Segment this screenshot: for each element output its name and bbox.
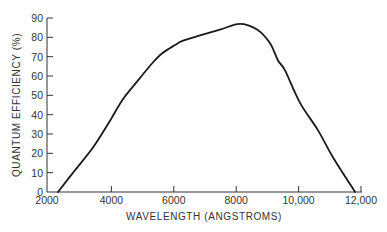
y-axis-title: QUANTUM EFFICIENCY (%) [11, 33, 22, 177]
y-tick-label: 50 [31, 89, 43, 101]
y-tick-label: 30 [31, 128, 43, 140]
x-tick-label: 12,000 [345, 194, 377, 206]
y-tick-label: 10 [31, 167, 43, 179]
efficiency-curve [58, 24, 355, 192]
x-axis-title: WAVELENGTH (ANGSTROMS) [126, 211, 282, 222]
x-tick-label: 8000 [225, 194, 249, 206]
x-tick-label: 4000 [100, 194, 124, 206]
x-tick-label: 6000 [162, 194, 186, 206]
x-tick-label: 10,000 [283, 194, 315, 206]
y-tick-label: 20 [31, 147, 43, 159]
y-tick-label: 40 [31, 109, 43, 121]
x-axis-ticks: 200040006000800010,00012,000 [35, 186, 377, 206]
y-tick-label: 70 [31, 51, 43, 63]
y-tick-label: 60 [31, 70, 43, 82]
y-axis-ticks: 0102030405060708090 [31, 12, 53, 198]
x-tick-label: 2000 [35, 194, 59, 206]
y-tick-label: 80 [31, 31, 43, 43]
y-tick-label: 90 [31, 12, 43, 24]
quantum-efficiency-chart: 0102030405060708090 200040006000800010,0… [0, 0, 387, 232]
